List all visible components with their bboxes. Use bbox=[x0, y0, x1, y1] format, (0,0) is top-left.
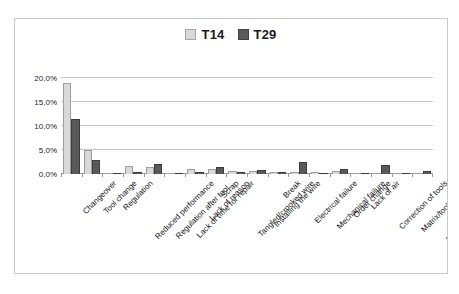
legend-label-t29: T29 bbox=[254, 27, 277, 42]
bar-t14 bbox=[84, 150, 92, 174]
bar-group bbox=[206, 78, 227, 174]
legend-entry-t29: T29 bbox=[238, 27, 277, 42]
x-axis-labels: ChangeoverTool changeRegulationReduced p… bbox=[61, 176, 433, 272]
bar-group bbox=[82, 78, 103, 174]
bar-group bbox=[247, 78, 268, 174]
bar-group bbox=[61, 78, 82, 174]
y-axis-tick-label: 15,0% bbox=[34, 98, 57, 107]
bar-group bbox=[185, 78, 206, 174]
bar-group bbox=[164, 78, 185, 174]
bar-group bbox=[350, 78, 371, 174]
bar-t29 bbox=[92, 160, 100, 174]
bar-t29 bbox=[216, 167, 224, 174]
bar-t29 bbox=[154, 164, 162, 174]
bar-group bbox=[268, 78, 289, 174]
bar-series-group bbox=[61, 78, 433, 174]
y-axis-tick-label: 0,0% bbox=[39, 170, 57, 179]
bar-group bbox=[412, 78, 433, 174]
bar-group bbox=[144, 78, 165, 174]
bar-group bbox=[330, 78, 351, 174]
bar-group bbox=[102, 78, 123, 174]
bar-t29 bbox=[381, 165, 389, 174]
y-axis-tick-label: 10,0% bbox=[34, 122, 57, 131]
legend-label-t14: T14 bbox=[201, 27, 224, 42]
legend-swatch-t29-icon bbox=[238, 29, 249, 40]
bar-group bbox=[371, 78, 392, 174]
bar-group bbox=[226, 78, 247, 174]
bar-group bbox=[123, 78, 144, 174]
bar-t29 bbox=[299, 162, 307, 174]
bar-t29 bbox=[71, 119, 79, 174]
legend-entry-t14: T14 bbox=[185, 27, 224, 42]
plot-area: 0,0%5,0%10,0%15,0%20,0% bbox=[61, 78, 433, 174]
y-axis-tick-label: 20,0% bbox=[34, 74, 57, 83]
legend-swatch-t14-icon bbox=[185, 29, 196, 40]
y-axis-tick-label: 5,0% bbox=[39, 146, 57, 155]
bar-t14 bbox=[125, 166, 133, 174]
chart-legend: T14 T29 bbox=[15, 27, 447, 42]
bar-t14 bbox=[63, 83, 71, 174]
bar-group bbox=[309, 78, 330, 174]
bar-group bbox=[392, 78, 413, 174]
chart-container: T14 T29 0,0%5,0%10,0%15,0%20,0% Changeov… bbox=[14, 18, 448, 274]
bar-t14 bbox=[146, 167, 154, 174]
bar-group bbox=[288, 78, 309, 174]
